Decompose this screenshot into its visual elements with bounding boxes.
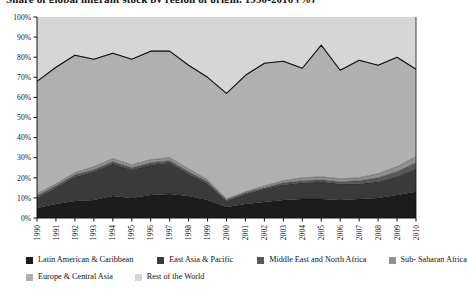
- legend-label-europe-central-asia: Europe & Central Asia: [38, 273, 113, 281]
- y-tick-label-70: 70%: [17, 73, 32, 82]
- x-tick-label-2005: 2005: [317, 225, 326, 240]
- x-tick-label-1994: 1994: [108, 225, 117, 240]
- x-tick-label-2002: 2002: [260, 225, 269, 240]
- chart-area: 0%10%20%30%40%50%60%70%80%90%100%1990199…: [0, 0, 430, 250]
- x-tick-label-1999: 1999: [203, 225, 212, 240]
- legend-row-1: Latin American & CaribbeanEast Asia & Pa…: [0, 252, 430, 269]
- x-tick-label-2010: 2010: [412, 225, 421, 240]
- x-tick-label-1991: 1991: [52, 225, 61, 240]
- x-tick-label-2000: 2000: [222, 225, 231, 240]
- x-tick-label-2001: 2001: [241, 225, 250, 240]
- legend-label-latin-american-caribbean: Latin American & Caribbean: [38, 256, 133, 264]
- x-tick-label-2003: 2003: [279, 225, 288, 240]
- stacked-area-chart: 0%10%20%30%40%50%60%70%80%90%100%1990199…: [0, 0, 430, 250]
- y-tick-label-100: 100%: [13, 13, 31, 22]
- legend-label-sub-saharan-africa: Sub- Saharan Africa: [401, 256, 467, 264]
- x-tick-label-1993: 1993: [89, 225, 98, 240]
- legend-swatch-rest-of-the-world: [135, 274, 142, 281]
- legend-swatch-sub-saharan-africa: [389, 257, 396, 264]
- chart-legend: Latin American & CaribbeanEast Asia & Pa…: [0, 252, 430, 295]
- x-tick-label-2008: 2008: [374, 225, 383, 240]
- y-tick-label-80: 80%: [17, 53, 32, 62]
- x-tick-label-2009: 2009: [393, 225, 402, 240]
- x-tick-label-1998: 1998: [184, 225, 193, 240]
- x-tick-label-2007: 2007: [355, 225, 364, 240]
- y-tick-label-50: 50%: [17, 113, 32, 122]
- legend-swatch-latin-american-caribbean: [26, 257, 33, 264]
- y-tick-label-30: 30%: [17, 153, 32, 162]
- legend-item-latin-american-caribbean[interactable]: Latin American & Caribbean: [26, 256, 133, 264]
- legend-row-2: Europe & Central AsiaRest of the World: [0, 269, 430, 286]
- legend-item-sub-saharan-africa[interactable]: Sub- Saharan Africa: [389, 256, 467, 264]
- legend-swatch-east-asia-pacific: [157, 257, 164, 264]
- legend-item-europe-central-asia[interactable]: Europe & Central Asia: [26, 273, 113, 281]
- x-tick-label-1996: 1996: [146, 225, 155, 240]
- legend-label-middle-east-and-north-africa: Middle East and North Africa: [269, 256, 366, 264]
- y-tick-label-40: 40%: [17, 133, 32, 142]
- legend-label-east-asia-pacific: East Asia & Pacific: [169, 256, 233, 264]
- y-tick-label-90: 90%: [17, 33, 32, 42]
- y-tick-label-60: 60%: [17, 93, 32, 102]
- legend-item-east-asia-pacific[interactable]: East Asia & Pacific: [157, 256, 233, 264]
- y-tick-label-10: 10%: [17, 194, 32, 203]
- legend-swatch-middle-east-and-north-africa: [257, 257, 264, 264]
- y-tick-label-0: 0%: [21, 214, 32, 223]
- legend-label-rest-of-the-world: Rest of the World: [147, 273, 205, 281]
- legend-swatch-europe-central-asia: [26, 274, 33, 281]
- x-tick-label-1995: 1995: [127, 225, 136, 240]
- legend-item-middle-east-and-north-africa[interactable]: Middle East and North Africa: [257, 256, 366, 264]
- x-tick-label-1992: 1992: [71, 225, 80, 240]
- x-tick-label-1990: 1990: [33, 225, 42, 240]
- legend-item-rest-of-the-world[interactable]: Rest of the World: [135, 273, 205, 281]
- y-tick-label-20: 20%: [17, 174, 32, 183]
- x-tick-label-2006: 2006: [336, 225, 345, 240]
- x-tick-label-1997: 1997: [165, 225, 174, 240]
- x-tick-label-2004: 2004: [298, 225, 307, 240]
